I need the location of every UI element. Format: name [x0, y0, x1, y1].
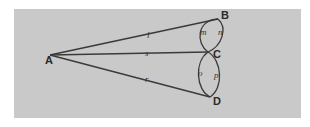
segment-ab	[50, 19, 218, 55]
point-label-a: A	[45, 54, 53, 66]
segment-ac	[50, 52, 208, 55]
point-label-b: B	[221, 9, 229, 21]
point-label-d: D	[213, 95, 221, 107]
arc-label-o: o	[198, 68, 203, 78]
graph-diagram: l s r m n o p A B C D	[0, 0, 310, 127]
arc-label-p: p	[213, 70, 219, 80]
segment-label-s: s	[145, 48, 149, 58]
arc-label-n: n	[218, 27, 223, 37]
segment-ad	[50, 55, 210, 97]
segment-label-l: l	[147, 30, 150, 40]
arc-label-m: m	[200, 27, 207, 37]
segment-label-r: r	[145, 74, 149, 84]
point-label-c: C	[213, 48, 221, 60]
